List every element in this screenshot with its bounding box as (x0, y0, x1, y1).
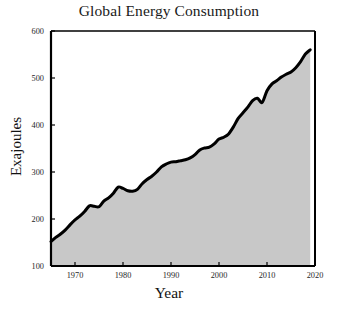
x-tick-label: 2000 (211, 271, 228, 280)
chart-plot-area: 197019801990200020102020 100200300400500… (0, 0, 338, 311)
x-tick-label: 2020 (307, 271, 324, 280)
x-tick-label: 2010 (259, 271, 276, 280)
chart-figure: Global Energy Consumption Exajoules Year… (0, 0, 338, 311)
y-tick-label: 600 (32, 27, 44, 36)
y-tick-label: 400 (32, 121, 44, 130)
y-tick-label: 300 (32, 168, 44, 177)
area-fill (51, 50, 310, 266)
y-tick-label: 200 (32, 215, 44, 224)
y-tick-label: 500 (32, 74, 44, 83)
x-tick-label: 1970 (67, 271, 84, 280)
x-tick-label: 1980 (115, 271, 132, 280)
y-tick-label: 100 (32, 262, 44, 271)
x-tick-label: 1990 (163, 271, 180, 280)
